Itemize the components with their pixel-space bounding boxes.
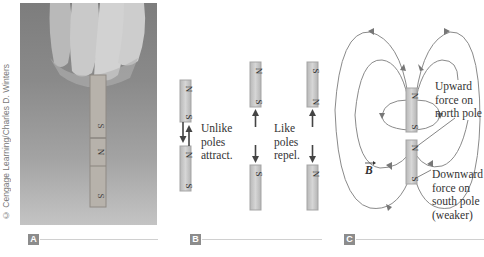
photo-pole-s-top: S: [96, 123, 106, 128]
photo-pole-s-bottom: S: [96, 193, 106, 198]
pole-s: S: [410, 124, 420, 129]
panel-c: N S N S B Upward force on north pole Dow…: [330, 0, 484, 257]
panel-c-label: C: [344, 234, 355, 245]
pole-s: S: [254, 171, 264, 176]
annotation-upward-force: Upward force on north pole: [435, 80, 482, 121]
photo-credit: © Cengage Learning/Charles D. Winters: [1, 40, 15, 220]
pole-s: S: [184, 183, 194, 188]
pole-n: N: [184, 152, 194, 159]
field-symbol: B: [365, 164, 373, 178]
panel-a: © Cengage Learning/Charles D. Winters S …: [0, 0, 160, 257]
pole-n: N: [311, 171, 321, 178]
pole-s: S: [254, 99, 264, 104]
divider: [202, 239, 322, 240]
panel-a-label-row: A: [28, 234, 158, 246]
panel-b-label-row: B: [190, 234, 320, 246]
divider: [356, 239, 484, 240]
photo-hand-holding-magnets: S N S: [20, 3, 157, 225]
hand-illustration: S N S: [20, 3, 157, 225]
annotation-downward-force: Downward force on south pole (weaker): [432, 168, 483, 222]
caption-attract: Unlike poles attract.: [201, 122, 233, 163]
pole-n: N: [410, 93, 420, 100]
panel-c-label-row: C: [344, 234, 484, 246]
pole-n: N: [311, 99, 321, 106]
panel-b: N S N S N S S S N N Unlike poles attract…: [160, 0, 330, 257]
caption-repel: Like poles repel.: [274, 122, 300, 163]
pole-interaction-diagram: N S N S N S S S N N: [160, 0, 330, 257]
pole-n: N: [184, 86, 194, 93]
photo-pole-n: N: [96, 149, 106, 156]
pole-n: N: [254, 68, 264, 75]
pole-s: S: [311, 68, 321, 73]
panel-b-label: B: [190, 234, 201, 245]
panel-a-label: A: [28, 234, 39, 245]
pole-s: S: [184, 114, 194, 119]
divider: [40, 239, 158, 240]
